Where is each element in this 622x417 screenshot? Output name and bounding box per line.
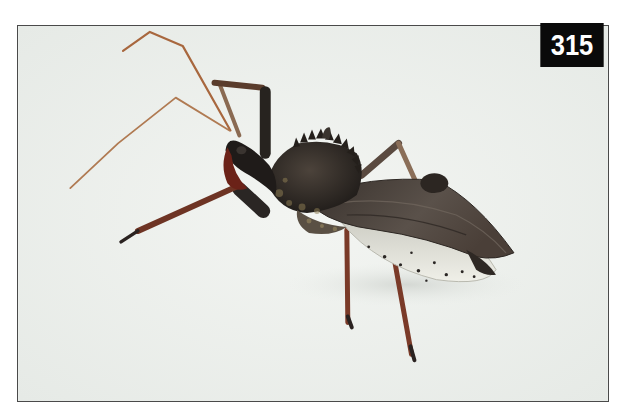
plate-number: 315 — [551, 29, 594, 62]
page: 315 — [0, 0, 622, 417]
wheel-bug-illustration — [18, 26, 608, 401]
insect-photo — [17, 25, 609, 402]
plate-number-badge: 315 — [540, 23, 603, 67]
